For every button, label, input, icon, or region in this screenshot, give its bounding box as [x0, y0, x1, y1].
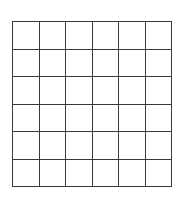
grid-cell[interactable]	[13, 160, 40, 188]
grid-cell[interactable]	[146, 105, 173, 133]
grid-cell[interactable]	[66, 105, 93, 133]
grid-cell[interactable]	[93, 50, 120, 78]
grid-cell[interactable]	[13, 22, 40, 50]
grid-cell[interactable]	[93, 77, 120, 105]
grid-cell[interactable]	[119, 105, 146, 133]
grid-cell[interactable]	[13, 132, 40, 160]
grid-cell[interactable]	[40, 160, 67, 188]
grid-cell[interactable]	[40, 77, 67, 105]
grid-cell[interactable]	[40, 22, 67, 50]
grid-6x6	[12, 21, 172, 187]
grid-cell[interactable]	[119, 77, 146, 105]
grid-cell[interactable]	[40, 50, 67, 78]
grid-cell[interactable]	[40, 105, 67, 133]
grid-cell[interactable]	[119, 22, 146, 50]
grid-cell[interactable]	[146, 160, 173, 188]
grid-cell[interactable]	[146, 50, 173, 78]
grid-cell[interactable]	[13, 105, 40, 133]
grid-cell[interactable]	[93, 105, 120, 133]
grid-cell[interactable]	[13, 77, 40, 105]
grid-cell[interactable]	[40, 132, 67, 160]
figure-canvas	[0, 0, 183, 198]
grid-cell[interactable]	[66, 22, 93, 50]
grid-cell[interactable]	[66, 77, 93, 105]
grid-cell[interactable]	[93, 132, 120, 160]
grid-cell[interactable]	[119, 160, 146, 188]
grid-cell[interactable]	[93, 22, 120, 50]
grid-cell[interactable]	[66, 160, 93, 188]
grid-cell[interactable]	[146, 22, 173, 50]
grid-cell[interactable]	[13, 50, 40, 78]
grid-cell[interactable]	[119, 132, 146, 160]
grid-cell[interactable]	[66, 132, 93, 160]
grid-cell[interactable]	[66, 50, 93, 78]
grid-cell[interactable]	[146, 132, 173, 160]
grid-cell[interactable]	[93, 160, 120, 188]
grid-cell[interactable]	[119, 50, 146, 78]
grid-cell[interactable]	[146, 77, 173, 105]
